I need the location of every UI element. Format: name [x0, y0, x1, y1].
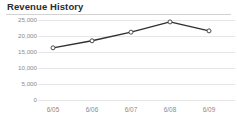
data-point-marker	[129, 30, 133, 34]
chart-plot-area: 25,00020,00015,00010,0005,0000 6/056/066…	[0, 14, 237, 125]
data-point-marker	[90, 39, 94, 43]
revenue-marker-group	[51, 20, 211, 50]
revenue-line-path	[53, 22, 209, 48]
data-point-marker	[168, 20, 172, 24]
revenue-line-series	[0, 14, 237, 125]
revenue-history-chart-panel: Revenue History 25,00020,00015,00010,000…	[0, 0, 237, 125]
page-title: Revenue History	[7, 1, 83, 12]
data-point-marker	[207, 29, 211, 33]
data-point-marker	[51, 46, 55, 50]
